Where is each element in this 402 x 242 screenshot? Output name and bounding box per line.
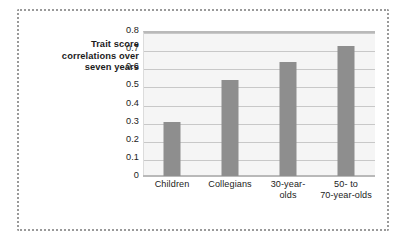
y-tick-label: 0.2 <box>117 135 139 144</box>
y-tick-label: 0.8 <box>117 26 139 35</box>
figure: Trait score correlations over seven year… <box>0 0 402 242</box>
category-label-line: 50- to <box>300 179 392 190</box>
category-label: 50- to70-year-olds <box>300 179 392 202</box>
y-axis-tick-labels: 00.10.20.30.40.50.60.70.8 <box>117 31 139 176</box>
y-tick-label: 0.5 <box>117 81 139 90</box>
x-axis-category-labels: ChildrenCollegians30-year-olds50- to70-y… <box>143 179 375 219</box>
bar <box>164 122 181 176</box>
y-tick-label: 0.6 <box>117 63 139 72</box>
bar <box>222 80 239 176</box>
y-tick-label: 0.1 <box>117 153 139 162</box>
category-label-line: 70-year-olds <box>300 190 392 201</box>
y-tick-label: 0.7 <box>117 45 139 54</box>
y-tick-label: 0.4 <box>117 99 139 108</box>
bar <box>338 46 355 177</box>
y-tick-label: 0.3 <box>117 117 139 126</box>
bar-chart: Trait score correlations over seven year… <box>17 9 389 231</box>
bar-series <box>143 31 375 176</box>
bar <box>280 62 297 176</box>
